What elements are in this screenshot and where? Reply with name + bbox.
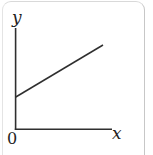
axes-plot <box>0 0 153 155</box>
origin-label: 0 <box>7 131 17 147</box>
y-axis-label: y <box>12 9 22 26</box>
function-line <box>16 45 103 97</box>
figure-panel: y x 0 <box>0 0 153 155</box>
x-axis-label: x <box>112 125 122 142</box>
